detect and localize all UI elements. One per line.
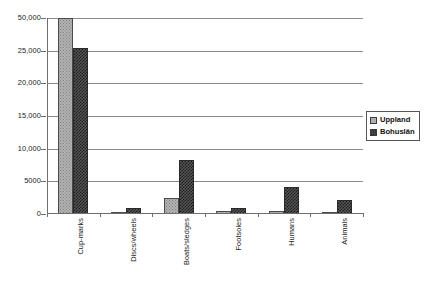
x-axis-label-holder: Animals: [341, 218, 342, 219]
x-axis-label-holder: Cup-marks: [77, 218, 78, 219]
y-axis-line: [47, 18, 48, 214]
y-axis-tick: [41, 51, 46, 52]
legend: Uppland Bohuslän: [366, 111, 420, 141]
y-axis-tick-label: 20,000: [18, 79, 41, 87]
bar-chart: 50,00025,00020,00015,00010,00050000 Cup-…: [0, 0, 433, 287]
y-axis-tick: [41, 83, 46, 84]
legend-item-uppland[interactable]: Uppland: [370, 115, 415, 125]
x-axis-label-holder: Boats/sledges: [183, 218, 184, 219]
y-axis-tick: [41, 181, 46, 182]
x-axis-tick: [205, 213, 206, 217]
legend-item-bohuslan[interactable]: Bohuslän: [370, 127, 415, 137]
bar-bohuslan: [284, 187, 299, 214]
legend-label-uppland: Uppland: [380, 116, 410, 124]
x-axis-label-holder: Humans: [288, 218, 289, 219]
x-axis-label-holder: Footsoles: [235, 218, 236, 219]
x-axis-category-label: Animals: [341, 218, 349, 245]
y-axis-tick-label: 5000: [24, 177, 41, 185]
legend-label-bohuslan: Bohuslän: [380, 128, 415, 136]
y-axis-tick: [41, 116, 46, 117]
x-axis-label-holder: Discs/wheels: [130, 218, 131, 219]
y-axis-tick-label: 15,000: [18, 112, 41, 120]
y-axis-tick: [41, 214, 46, 215]
x-axis-tick: [363, 213, 364, 217]
gridline: [47, 116, 363, 117]
bar-uppland: [164, 198, 179, 214]
x-axis-tick: [310, 213, 311, 217]
gridline: [47, 51, 363, 52]
y-axis-tick-label: 25,000: [18, 47, 41, 55]
x-axis-tick: [152, 213, 153, 217]
x-axis-tick: [47, 213, 48, 217]
x-axis-category-label: Footsoles: [235, 218, 243, 251]
x-axis-category-label: Discs/wheels: [130, 218, 138, 262]
legend-swatch-uppland: [370, 117, 377, 124]
y-axis-labels: 50,00025,00020,00015,00010,00050000: [0, 18, 41, 214]
gridline: [47, 149, 363, 150]
gridline: [47, 18, 363, 19]
bar-bohuslan: [179, 160, 194, 214]
bar-bohuslan: [337, 200, 352, 214]
legend-swatch-bohuslan: [370, 129, 377, 136]
y-axis-tick-label: 10,000: [18, 145, 41, 153]
y-axis-tick: [41, 149, 46, 150]
y-axis-tick-label: 50,000: [18, 14, 41, 22]
bar-uppland: [58, 18, 73, 214]
y-axis-tick: [41, 18, 46, 19]
x-axis-category-label: Cup-marks: [77, 218, 85, 255]
bar-bohuslan: [73, 48, 88, 214]
x-axis-category-label: Humans: [288, 218, 296, 246]
x-axis-tick: [100, 213, 101, 217]
gridline: [47, 181, 363, 182]
x-axis-category-label: Boats/sledges: [183, 218, 191, 265]
x-axis-tick: [258, 213, 259, 217]
plot-area: [47, 18, 363, 214]
gridline: [47, 83, 363, 84]
